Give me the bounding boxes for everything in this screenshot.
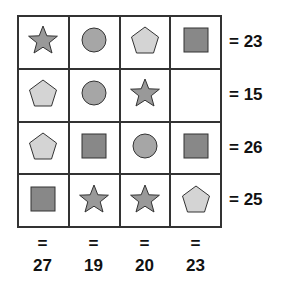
star-icon — [27, 24, 59, 60]
circle-icon — [129, 130, 161, 166]
square-icon — [180, 130, 212, 166]
col-sum-3: =20 — [119, 233, 170, 277]
cell-r3-c4 — [170, 122, 221, 175]
square-icon — [78, 130, 110, 166]
row-sum-3: = 26 — [229, 138, 263, 158]
cell-r3-c2 — [69, 122, 120, 175]
col-sum-1: =27 — [17, 233, 68, 277]
pentagon-icon — [27, 77, 59, 113]
cell-r2-c3 — [120, 69, 171, 122]
cell-r1-c1 — [18, 16, 69, 69]
cell-r1-c3 — [120, 16, 171, 69]
cell-r4-c3 — [120, 174, 171, 227]
cell-r4-c1 — [18, 174, 69, 227]
cell-r2-c2 — [69, 69, 120, 122]
star-icon — [129, 77, 161, 113]
cell-r3-c3 — [120, 122, 171, 175]
cell-r2-c1 — [18, 69, 69, 122]
cell-r1-c4 — [170, 16, 221, 69]
row-sum-1: = 23 — [229, 32, 263, 52]
circle-icon — [78, 77, 110, 113]
row-sum-4: = 25 — [229, 190, 263, 210]
cell-r3-c1 — [18, 122, 69, 175]
star-icon — [78, 183, 110, 219]
puzzle-grid — [17, 15, 222, 228]
cell-r2-c4 — [170, 69, 221, 122]
pentagon-icon — [27, 130, 59, 166]
cell-r4-c2 — [69, 174, 120, 227]
row-sum-2: = 15 — [229, 85, 263, 105]
square-icon — [180, 24, 212, 60]
col-sum-4: =23 — [170, 233, 221, 277]
col-sum-2: =19 — [68, 233, 119, 277]
pentagon-icon — [129, 24, 161, 60]
cell-r4-c4 — [170, 174, 221, 227]
circle-icon — [78, 24, 110, 60]
cell-r1-c2 — [69, 16, 120, 69]
pentagon-icon — [180, 183, 212, 219]
square-icon — [27, 183, 59, 219]
star-icon — [129, 183, 161, 219]
